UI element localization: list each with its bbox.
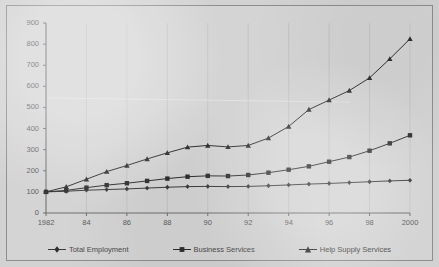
data-point-marker <box>266 170 270 174</box>
y-axis-label: 900 <box>13 19 39 27</box>
data-point-marker <box>347 88 352 93</box>
data-point-marker <box>388 141 392 145</box>
data-point-marker <box>246 184 250 189</box>
data-point-marker <box>307 182 311 187</box>
data-point-marker <box>327 181 331 186</box>
y-axis-label: 600 <box>13 82 39 90</box>
x-axis-label: 94 <box>274 219 304 227</box>
legend-label-total-employment: Total Employment <box>69 245 129 254</box>
y-axis-label: 300 <box>13 146 39 154</box>
x-axis-label: 92 <box>233 219 263 227</box>
data-point-marker <box>347 155 351 159</box>
legend-marker-square-icon <box>173 245 191 254</box>
legend-marker-diamond-icon <box>48 245 66 254</box>
data-point-marker <box>326 97 331 102</box>
data-point-marker <box>145 186 149 191</box>
y-axis-label: 500 <box>13 103 39 111</box>
chart-figure: 0100200300400500600700800900 19828486889… <box>0 0 439 267</box>
x-axis-label: 84 <box>71 219 101 227</box>
data-point-marker <box>145 179 149 183</box>
data-point-marker <box>407 36 412 41</box>
x-axis-label: 2000 <box>395 219 425 227</box>
data-point-marker <box>165 176 169 180</box>
data-point-marker <box>185 184 189 189</box>
chart-legend: Total Employment Business Services Help … <box>6 236 433 262</box>
y-axis-label: 400 <box>13 125 39 133</box>
x-axis-label: 96 <box>314 219 344 227</box>
series-line <box>46 39 410 192</box>
data-point-marker <box>307 164 311 168</box>
data-point-marker <box>266 183 270 188</box>
legend-label-business-services: Business Services <box>194 245 255 254</box>
series-help-supply-services <box>43 36 412 194</box>
data-point-marker <box>367 179 371 184</box>
data-point-marker <box>347 180 351 185</box>
data-point-marker <box>408 133 412 137</box>
data-point-marker <box>125 181 129 185</box>
legend-marker-triangle-icon <box>299 245 317 254</box>
data-point-marker <box>165 185 169 190</box>
series-line <box>46 135 410 192</box>
legend-item-total-employment[interactable]: Total Employment <box>48 245 129 254</box>
data-point-marker <box>246 173 250 177</box>
y-axis-label: 0 <box>13 209 39 217</box>
data-point-marker <box>206 174 210 178</box>
data-point-marker <box>306 107 311 112</box>
x-axis-label: 98 <box>355 219 385 227</box>
data-point-marker <box>105 187 109 192</box>
data-point-marker <box>185 174 189 178</box>
y-axis-label: 100 <box>13 188 39 196</box>
data-point-marker <box>327 160 331 164</box>
x-axis-label: 88 <box>152 219 182 227</box>
data-point-marker <box>226 184 230 189</box>
data-point-marker <box>287 183 291 188</box>
data-point-marker <box>408 178 412 183</box>
scan-artifact <box>48 98 350 102</box>
data-point-marker <box>367 149 371 153</box>
data-point-marker <box>286 168 290 172</box>
data-point-marker <box>226 174 230 178</box>
data-point-marker <box>104 183 108 187</box>
legend-item-help-supply-services[interactable]: Help Supply Services <box>299 245 391 254</box>
y-axis-label: 700 <box>13 61 39 69</box>
x-axis-label: 90 <box>193 219 223 227</box>
x-axis-label: 1982 <box>31 219 61 227</box>
x-axis-label: 86 <box>112 219 142 227</box>
legend-item-business-services[interactable]: Business Services <box>173 245 255 254</box>
data-point-marker <box>206 184 210 189</box>
data-point-marker <box>388 179 392 184</box>
y-axis-label: 800 <box>13 40 39 48</box>
data-point-marker <box>266 135 271 140</box>
legend-label-help-supply-services: Help Supply Services <box>320 245 391 254</box>
y-axis-label: 200 <box>13 167 39 175</box>
data-point-marker <box>125 187 129 192</box>
data-point-marker <box>84 185 88 189</box>
